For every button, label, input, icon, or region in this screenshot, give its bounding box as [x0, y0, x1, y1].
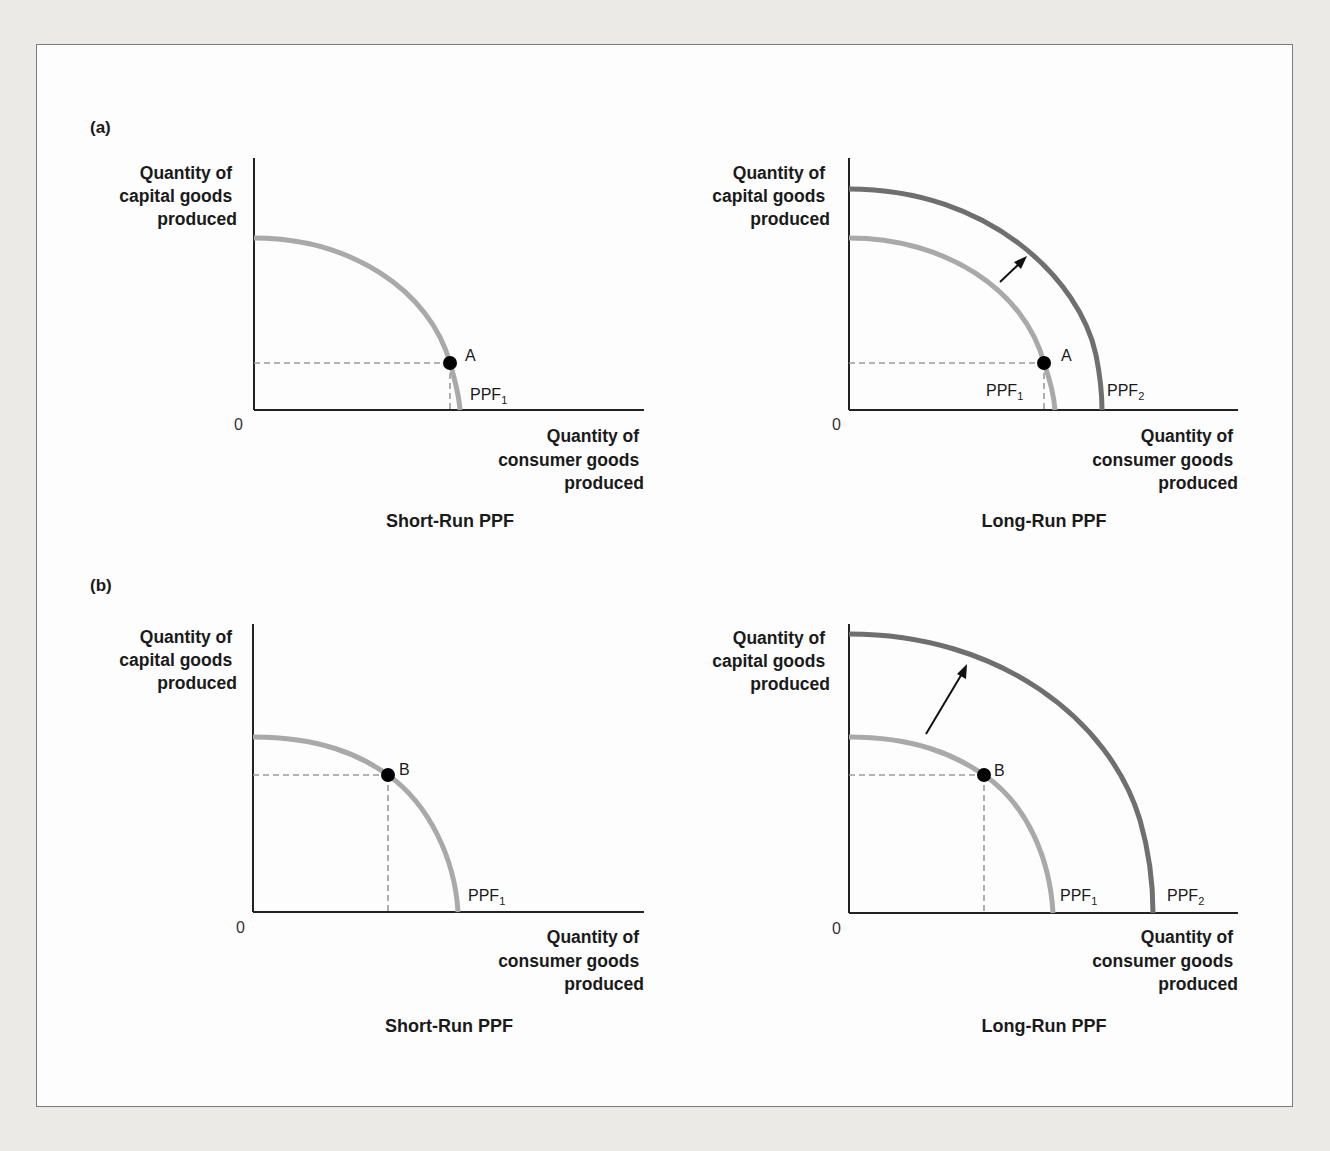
x-axis-title: Quantity of consumer goods produced	[1092, 927, 1238, 994]
y-axis-title: Quantity of capital goods produced	[119, 163, 237, 229]
chart-a-short-run: Quantity of capital goods produced 0 A P…	[119, 158, 644, 531]
x-axis-title: Quantity of consumer goods produced	[1092, 426, 1238, 493]
point-a	[1037, 356, 1051, 370]
ppf1-label: PPF1	[468, 887, 505, 907]
ppf1-curve	[253, 737, 458, 912]
chart-title: Short-Run PPF	[386, 511, 514, 531]
ppf1-label: PPF1	[1060, 887, 1097, 907]
panel-a: (a) Quantity of capital goods produced 0…	[90, 118, 1238, 531]
y-axis-title: Quantity of capital goods produced	[119, 627, 237, 693]
panel-label-a: (a)	[90, 118, 111, 137]
origin-label: 0	[832, 416, 841, 433]
chart-b-long-run: Quantity of capital goods produced 0 B P…	[712, 624, 1238, 1036]
y-axis-title: Quantity of capital goods produced	[712, 163, 830, 229]
ppf2-label: PPF2	[1107, 382, 1144, 402]
x-axis-title: Quantity of consumer goods produced	[498, 426, 644, 493]
chart-title: Long-Run PPF	[982, 511, 1107, 531]
arrowhead-icon	[957, 664, 967, 679]
ppf2-curve	[849, 189, 1102, 410]
point-a	[443, 356, 457, 370]
chart-title: Long-Run PPF	[982, 1016, 1107, 1036]
ppf-figure: (a) Quantity of capital goods produced 0…	[0, 0, 1330, 1151]
ppf1-label: PPF1	[986, 382, 1023, 402]
point-b	[977, 768, 991, 782]
origin-label: 0	[236, 919, 245, 936]
shift-arrow	[926, 672, 963, 734]
point-label: B	[994, 762, 1005, 779]
point-label: B	[399, 761, 410, 778]
point-label: A	[1061, 347, 1072, 364]
ppf2-label: PPF2	[1167, 887, 1204, 907]
x-axis-title: Quantity of consumer goods produced	[498, 927, 644, 994]
ppf1-label: PPF1	[470, 386, 507, 406]
origin-label: 0	[832, 920, 841, 937]
origin-label: 0	[234, 416, 243, 433]
y-axis-title: Quantity of capital goods produced	[712, 628, 830, 694]
chart-b-short-run: Quantity of capital goods produced 0 B P…	[119, 624, 644, 1036]
ppf1-curve	[849, 238, 1055, 410]
panel-b: (b) Quantity of capital goods produced 0…	[90, 576, 1238, 1036]
chart-title: Short-Run PPF	[385, 1016, 513, 1036]
ppf1-curve	[254, 238, 460, 410]
ppf1-curve	[849, 737, 1053, 913]
chart-a-long-run: Quantity of capital goods produced 0 A P…	[712, 158, 1238, 531]
panel-label-b: (b)	[90, 576, 112, 595]
point-b	[381, 768, 395, 782]
point-label: A	[465, 347, 476, 364]
